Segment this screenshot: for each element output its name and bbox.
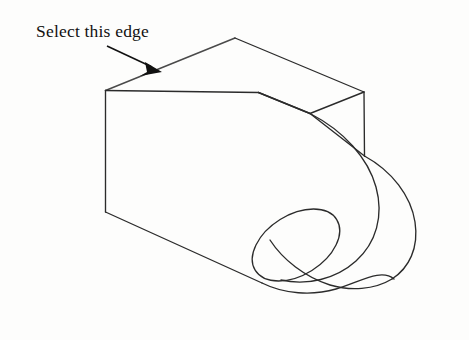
notch-vertical-edge xyxy=(364,92,365,156)
top-face xyxy=(106,38,365,114)
annotation-label: Select this edge xyxy=(36,22,149,41)
top-front-right-edge xyxy=(106,91,259,93)
front-left-face xyxy=(106,91,263,284)
top-back-right-edge xyxy=(235,38,364,92)
highlighted-edge[interactable] xyxy=(106,38,236,91)
technical-drawing xyxy=(0,0,469,340)
front-face-top-edge xyxy=(259,93,311,114)
drawing-canvas: Select this edge xyxy=(0,0,469,340)
notch-top-edges xyxy=(259,92,365,114)
cylindrical-boss xyxy=(259,93,416,294)
bottom-front-edge xyxy=(106,212,263,283)
annotation-leader xyxy=(107,46,162,76)
leader-line xyxy=(107,46,152,67)
notch xyxy=(310,92,365,156)
